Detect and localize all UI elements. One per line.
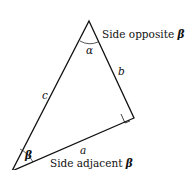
side-opposite-label: Side opposite β [102, 28, 184, 40]
side-a-label: a [80, 144, 86, 156]
side-c-label: c [42, 89, 48, 101]
triangle [12, 21, 134, 170]
alpha-label: α [86, 44, 93, 56]
side-b-label: b [118, 65, 125, 77]
side-adjacent-label: Side adjacent β [50, 157, 133, 169]
beta-label: β [24, 149, 32, 161]
triangle-diagram: α b c a β Side opposite β Side adjacent … [0, 0, 187, 170]
